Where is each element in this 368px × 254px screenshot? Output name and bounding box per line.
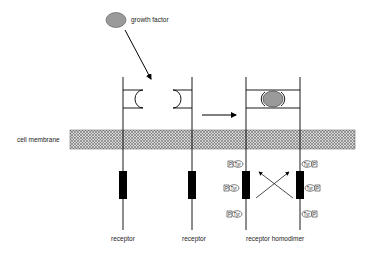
growth-factor-label: growth factor	[131, 16, 169, 24]
cell-membrane-label: cell membrane	[17, 136, 60, 143]
svg-text:Tyr: Tyr	[231, 186, 238, 191]
receptor-1-label: receptor	[111, 235, 136, 243]
binding-pocket-icon	[173, 90, 181, 108]
phospho-tyr-right: Tyr P Tyr P Tyr P	[302, 161, 320, 218]
kinase-domain	[119, 171, 127, 199]
svg-text:Tyr: Tyr	[235, 162, 242, 167]
kinase-domain-left	[242, 171, 250, 199]
receptor-2: receptor	[173, 77, 207, 243]
svg-text:P: P	[313, 212, 316, 217]
svg-text:Tyr: Tyr	[234, 212, 241, 217]
kinase-domain	[188, 171, 196, 199]
transphosphorylation-arrow-icon	[256, 172, 289, 198]
receptor-homodimer: P Tyr P Tyr P Tyr Tyr P Tyr P Tyr	[224, 77, 320, 243]
growth-factor: growth factor	[106, 13, 169, 28]
svg-text:Tyr: Tyr	[304, 162, 311, 167]
receptor-1: receptor	[111, 77, 143, 243]
receptor-2-label: receptor	[182, 235, 207, 243]
svg-text:Tyr: Tyr	[304, 212, 311, 217]
bound-growth-factor-icon	[263, 91, 283, 107]
cell-membrane	[70, 130, 355, 149]
transphosphorylation-arrow-icon	[259, 172, 293, 198]
receptor-homodimer-label: receptor homodimer	[246, 235, 305, 243]
growth-factor-ligand-icon	[106, 13, 126, 28]
receptor-dimerization-diagram: growth factor cell membrane receptor rec…	[0, 0, 368, 254]
svg-text:Tyr: Tyr	[307, 186, 314, 191]
svg-text:P: P	[229, 162, 232, 167]
binding-arrow-icon	[125, 30, 151, 79]
binding-pocket-icon	[135, 90, 143, 108]
svg-text:P: P	[313, 162, 316, 167]
phospho-tyr-left: P Tyr P Tyr P Tyr	[224, 161, 243, 218]
kinase-domain-right	[296, 171, 304, 199]
svg-text:P: P	[316, 186, 319, 191]
svg-text:P: P	[225, 186, 228, 191]
svg-text:P: P	[228, 212, 231, 217]
